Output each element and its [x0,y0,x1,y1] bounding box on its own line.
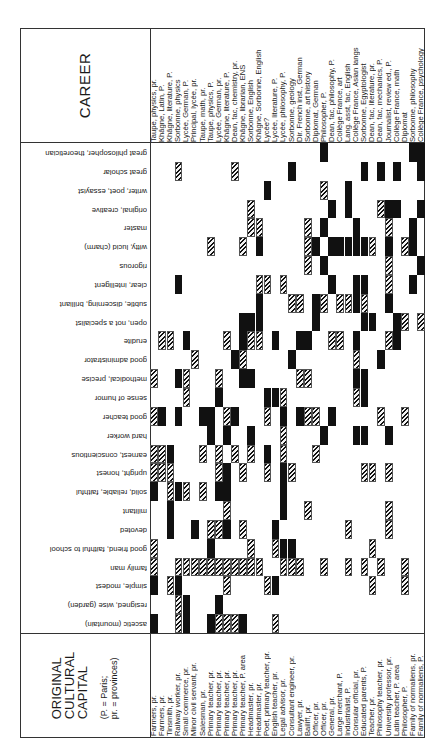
solid-mark [377,350,385,369]
hatched-mark [417,313,425,332]
origin-label: Primary teacher, P. area [239,634,247,738]
hatched-mark [167,482,175,501]
hatched-mark [385,218,393,237]
solid-mark [369,313,377,332]
origin-label: Farmers, pr. [158,634,166,738]
solid-mark [345,200,353,219]
solid-mark [199,407,207,426]
career-label: Lang. asst, fac, English [344,30,352,142]
career-label: Taupe, physics, P. [207,30,215,142]
solid-mark [264,445,272,464]
solid-mark [361,369,369,388]
hatched-mark [336,294,344,313]
origin-label-text: Bailiff, pr. [304,632,312,738]
hatched-mark [158,463,166,482]
solid-mark [207,539,215,558]
hatched-mark [150,539,158,558]
hatched-mark [304,501,312,520]
hatched-mark [385,256,393,275]
origin-label-text: Primary teacher, pr. [231,632,239,738]
hatched-mark [175,558,183,577]
origin-label: Industrialist, P. [344,634,352,738]
origin-labels: Farmers, pr.Farmers, pr.Tinsmith, pr.Rai… [150,634,425,738]
origin-label: Legal advisor, pr. [279,634,287,738]
trait-label: upright, honest [37,463,147,482]
solid-mark [175,576,183,595]
hatched-mark [385,463,393,482]
career-label-text: Collège France, math [393,30,401,142]
hatched-mark [353,350,361,369]
trait-label: original, creative [37,200,147,219]
hatched-mark [312,407,320,426]
hatched-mark [167,331,175,350]
origin-label-text: Primary teacher, pr. [207,632,215,738]
solid-mark [167,501,175,520]
hatched-mark [385,331,393,350]
hatched-mark [272,539,280,558]
hatched-mark [345,294,353,313]
solid-mark [280,407,288,426]
hatched-mark [296,369,304,388]
hatched-mark [183,558,191,577]
origin-label-text: Consultant engineer, pr. [288,632,296,738]
hatched-mark [280,445,288,464]
hatched-mark [231,162,239,181]
solid-mark [191,520,199,539]
hatched-mark [401,313,409,332]
solid-mark [312,294,320,313]
hatched-mark [239,520,247,539]
career-label: Collège France, psychology [417,30,425,142]
trait-label: witty, lucid (charm) [37,237,147,256]
career-label-text: Diplomat, German [312,30,320,142]
origin-title-line-3: CAPITAL [76,652,89,720]
solid-mark [272,331,280,350]
solid-mark [417,256,425,275]
career-label-text: Collège France, art [336,30,344,142]
solid-mark [320,143,328,162]
career-title: CAREER [76,53,93,119]
hatched-mark [239,463,247,482]
origin-label: Farmers, pr. [150,634,158,738]
career-label: Khâgne, Latin, P. [158,30,166,142]
hatched-mark [296,558,304,577]
origin-label: Primary teacher, pr. [215,634,223,738]
hatched-mark [264,407,272,426]
hatched-mark [150,445,158,464]
trait-label: subtle, discerning, brilliant [37,294,147,313]
career-label: Dean, fac, chemistry, pr. [231,30,239,142]
solid-mark [385,426,393,445]
hatched-mark [369,237,377,256]
solid-mark [231,350,239,369]
solid-mark [417,143,425,162]
career-label-text: Taupe, math, pr. [199,30,207,142]
hatched-mark [304,237,312,256]
solid-mark [272,520,280,539]
solid-mark [150,482,158,501]
hatched-mark [272,614,280,633]
trait-label: earnest, conscientious [37,445,147,464]
hatched-mark [215,614,223,633]
solid-mark [264,181,272,200]
hatched-mark [167,463,175,482]
solid-mark [223,520,231,539]
solid-mark [175,482,183,501]
origin-label-text: Officer, pr. [312,632,320,738]
hatched-mark [320,294,328,313]
origin-label: Primary teacher, pr. [231,634,239,738]
hatched-mark [231,558,239,577]
solid-mark [175,407,183,426]
hatched-mark [377,200,385,219]
solid-mark [328,275,336,294]
solid-mark [393,162,401,181]
solid-mark [385,237,393,256]
origin-label: Primary teacher, pr. [207,634,215,738]
career-label: Khâgne, literature, P. [223,30,231,142]
solid-mark [239,313,247,332]
solid-mark [183,595,191,614]
trait-labels: great philosopher, theoreticiangreat sch… [20,143,150,633]
origin-label-text: Salesman, pr. [199,632,207,738]
solid-mark [312,313,320,332]
origin-label: General, pr. [328,634,336,738]
hatched-mark [385,501,393,520]
trait-label: erudite [37,331,147,350]
